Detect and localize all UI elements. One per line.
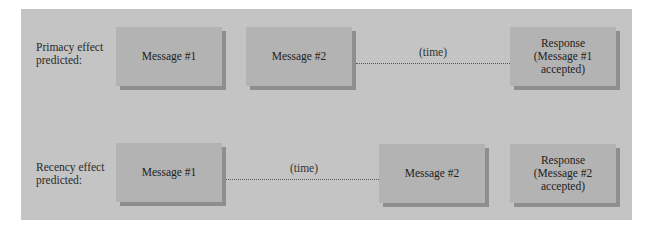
recency-response-box: Response (Message #2 accepted) <box>510 144 616 203</box>
box-text: Response (Message #2 accepted) <box>534 154 592 193</box>
primacy-message-1-box: Message #1 <box>116 27 222 86</box>
primacy-message-2-box: Message #2 <box>246 27 352 86</box>
box-text: Message #2 <box>405 167 460 180</box>
recency-message-1-box: Message #1 <box>116 143 222 202</box>
box-text: Message #2 <box>272 50 327 63</box>
primacy-response-box: Response (Message #1 accepted) <box>510 27 616 86</box>
recency-label: Recency effect predicted: <box>36 161 104 187</box>
recency-message-2-box: Message #2 <box>379 144 485 203</box>
recency-time-line <box>226 179 379 180</box>
recency-time-label: (time) <box>274 162 334 174</box>
box-text: Response (Message #1 accepted) <box>534 37 592 76</box>
box-text: Message #1 <box>142 166 197 179</box>
primacy-time-line <box>356 63 510 64</box>
primacy-label: Primacy effect predicted: <box>36 41 103 67</box>
primacy-time-label: (time) <box>403 46 463 58</box>
box-text: Message #1 <box>142 50 197 63</box>
